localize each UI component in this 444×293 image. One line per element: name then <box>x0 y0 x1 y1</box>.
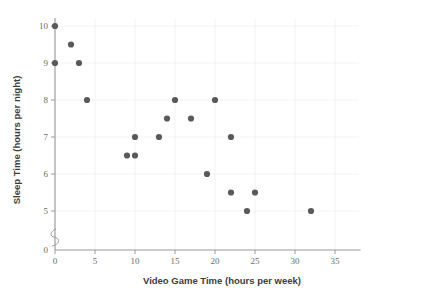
x-tick-label: 0 <box>53 256 58 266</box>
plot-canvas: 0510152025303505678910 Video Game Time (… <box>0 0 444 293</box>
data-point <box>132 134 138 140</box>
data-point <box>52 60 58 66</box>
data-point <box>156 134 162 140</box>
data-point <box>52 23 58 29</box>
x-axis-title: Video Game Time (hours per week) <box>143 275 301 286</box>
data-point <box>252 189 258 195</box>
axes <box>55 18 361 250</box>
x-tick-label: 10 <box>131 256 141 266</box>
data-point <box>228 189 234 195</box>
data-point <box>172 97 178 103</box>
data-point <box>68 41 74 47</box>
data-point <box>132 152 138 158</box>
data-point <box>76 60 82 66</box>
x-tick-label: 15 <box>171 256 181 266</box>
y-tick-label: 9 <box>44 58 49 68</box>
x-tick-label: 20 <box>211 256 221 266</box>
x-tick-label: 25 <box>251 256 261 266</box>
x-tick-label: 35 <box>331 256 341 266</box>
data-point <box>244 208 250 214</box>
y-tick-label: 8 <box>44 95 49 105</box>
data-point <box>212 97 218 103</box>
axis-ticks <box>51 26 335 254</box>
data-point <box>124 152 130 158</box>
y-tick-label: 6 <box>44 169 49 179</box>
gridlines <box>55 18 359 250</box>
data-point <box>164 115 170 121</box>
y-tick-label: 10 <box>39 21 49 31</box>
data-point <box>204 171 210 177</box>
data-point <box>84 97 90 103</box>
y-tick-label: 7 <box>44 132 49 142</box>
data-point <box>308 208 314 214</box>
y-tick-label: 5 <box>44 206 49 216</box>
y-tick-label: 0 <box>44 245 49 255</box>
data-points <box>52 23 314 214</box>
x-tick-label: 5 <box>93 256 98 266</box>
data-point <box>188 115 194 121</box>
x-tick-label: 30 <box>291 256 301 266</box>
y-axis-title: Sleep Time (hours per night) <box>11 76 22 205</box>
scatter-plot-figure: 0510152025303505678910 Video Game Time (… <box>0 0 444 293</box>
data-point <box>228 134 234 140</box>
